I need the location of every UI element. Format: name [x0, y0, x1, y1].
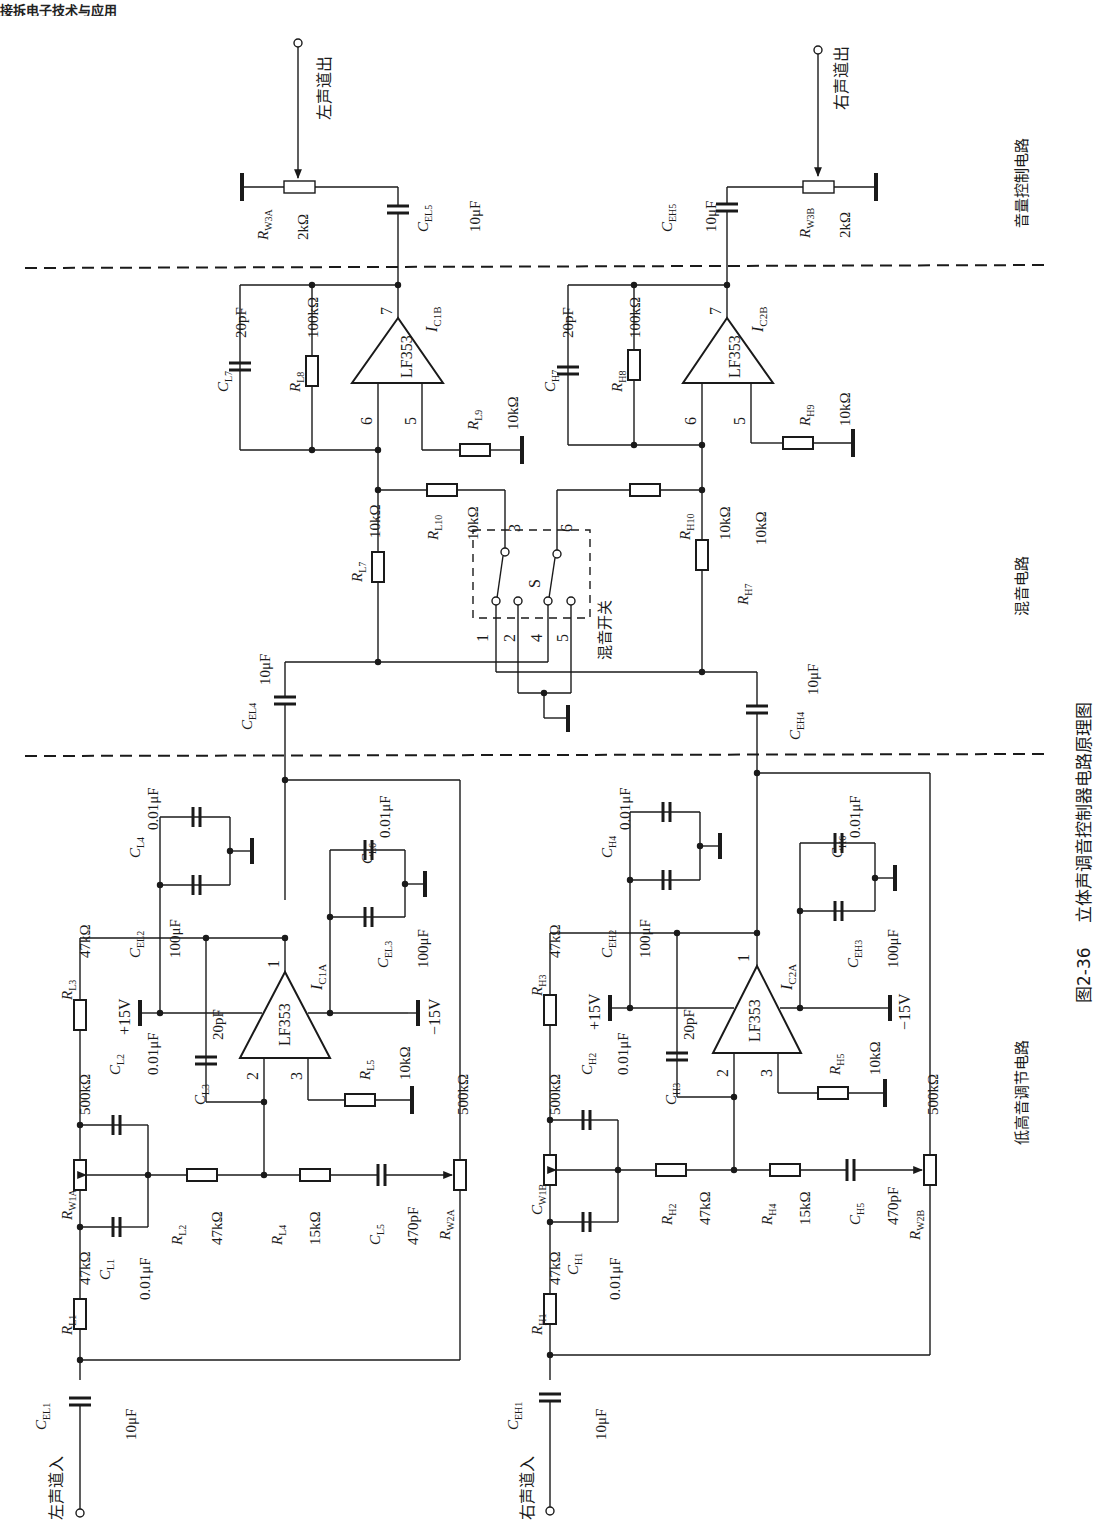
- component-rh8-value: 100kΩ: [627, 297, 643, 338]
- component-rh10-ref: RH10: [677, 514, 696, 541]
- component-ch2-ref: CH2: [579, 1053, 598, 1075]
- component-cl3-value: 20pF: [210, 1009, 226, 1040]
- component-rh1-value: 47kΩ: [547, 1251, 563, 1285]
- component-rw3a-ref: RW3A: [255, 208, 274, 241]
- component-cel3-ref: CEL3: [375, 941, 394, 968]
- component-ceh5-ref: CEH5: [659, 204, 678, 232]
- opamp-ic1b-ref: IC1B: [423, 306, 443, 333]
- component-rh10-value: 10kΩ: [717, 506, 733, 540]
- component-cel4-value: 10μF: [257, 654, 273, 685]
- mix-switch-label: 混音开关: [596, 600, 614, 660]
- component-rw3b-ref: RW3B: [797, 207, 816, 239]
- right-out-label: 右声道出: [832, 46, 851, 110]
- svg-text:7: 7: [707, 307, 724, 315]
- component-ch3-value: 20pF: [681, 1009, 697, 1040]
- switch-ref: S: [526, 579, 543, 588]
- component-rh4-ref: RH4: [759, 1204, 778, 1226]
- component-rl9-ref: RL9: [465, 410, 484, 431]
- svg-text:−15V: −15V: [426, 998, 443, 1035]
- component-ceh4-value: 10μF: [805, 664, 821, 695]
- component-rh5-ref: RH5: [827, 1054, 846, 1076]
- component-cel2-value: 100μF: [167, 919, 183, 958]
- svg-text:6: 6: [682, 417, 699, 425]
- component-cel2-ref: CEL2: [127, 931, 146, 958]
- component-cl2-value: 0.01μF: [145, 1032, 161, 1075]
- component-rw3b-value: 2kΩ: [837, 212, 853, 238]
- opamp-ic2a-ref: IC2A: [778, 964, 798, 991]
- component-cel1-value: 10μF: [123, 1409, 139, 1440]
- component-rl1-value: 47kΩ: [77, 1251, 93, 1285]
- component-rh7-value: 10kΩ: [753, 511, 769, 545]
- component-ch6-ref: CH6: [829, 836, 848, 858]
- component-rl2-value: 47kΩ: [209, 1211, 225, 1245]
- component-cel5-value: 10μF: [467, 201, 483, 232]
- component-rl8-value: 100kΩ: [305, 297, 321, 338]
- component-cw1b-value: 500kΩ: [547, 1074, 563, 1115]
- svg-text:5: 5: [554, 634, 571, 642]
- component-cw1b-ref: CW1B: [529, 1184, 548, 1215]
- component-ceh3-value: 100μF: [885, 929, 901, 968]
- component-ch1-value: 0.01μF: [607, 1257, 623, 1300]
- component-rl7-value: 10kΩ: [367, 504, 383, 538]
- component-cel5-ref: CEL5: [415, 205, 434, 232]
- component-ceh3-ref: CEH3: [845, 940, 864, 968]
- component-ch6-value: 0.01μF: [847, 795, 863, 838]
- component-rl5-ref: RL5: [357, 1060, 376, 1081]
- component-cel3-value: 100μF: [415, 929, 431, 968]
- svg-text:+15V: +15V: [116, 998, 133, 1035]
- component-rl2-ref: RL2: [169, 1225, 188, 1246]
- component-cl1-ref: CL1: [97, 1259, 116, 1280]
- component-cel4-ref: CEL4: [239, 703, 258, 730]
- svg-text:1: 1: [265, 960, 282, 968]
- svg-text:−15V: −15V: [896, 993, 913, 1030]
- component-rl8-ref: RL8: [287, 372, 306, 393]
- schematic-diagram: 左声道出 右声道出 左声道入 右声道入 音量控制电路 混音电路 低高音调节电路 …: [0, 0, 1101, 1525]
- svg-text:3: 3: [506, 524, 523, 532]
- opamp-ic1b-part: LF353: [398, 335, 415, 378]
- component-rh2-ref: RH2: [659, 1204, 678, 1226]
- left-out-label: 左声道出: [315, 56, 334, 120]
- component-ch5-value: 470pF: [885, 1187, 901, 1225]
- svg-text:5: 5: [402, 417, 419, 425]
- component-cl4-ref: CL4: [127, 837, 146, 858]
- svg-text:3: 3: [758, 1069, 775, 1077]
- component-rh9-ref: RH9: [797, 405, 816, 427]
- component-cl2-ref: CL2: [107, 1054, 126, 1075]
- component-rl1-ref: RL1: [59, 1315, 78, 1336]
- component-ceh5-value: 10μF: [703, 201, 719, 232]
- component-rh8-ref: RH8: [609, 371, 628, 393]
- component-rw1a-value: 500kΩ: [77, 1074, 93, 1115]
- component-rw2a-ref: RW2A: [437, 1208, 456, 1241]
- component-rl3-ref: RL3: [59, 980, 78, 1001]
- svg-text:1: 1: [735, 954, 752, 962]
- component-rw2a-value: 500kΩ: [455, 1074, 471, 1115]
- component-rw3a-value: 2kΩ: [295, 214, 311, 240]
- svg-text:2: 2: [244, 1072, 261, 1080]
- component-ceh1-value: 10μF: [593, 1409, 609, 1440]
- component-cl6-value: 0.01μF: [377, 795, 393, 838]
- component-ch3-ref: CH3: [663, 1083, 682, 1105]
- component-rh1-ref: RH1: [529, 1314, 548, 1336]
- section-volume-label: 音量控制电路: [1013, 138, 1031, 228]
- component-rl7-ref: RL7: [349, 562, 368, 583]
- component-ch5-ref: CH5: [847, 1203, 866, 1225]
- component-ch4-ref: CH4: [599, 836, 618, 858]
- component-rl10-value: 10kΩ: [465, 506, 481, 540]
- component-rh2-value: 47kΩ: [697, 1191, 713, 1225]
- svg-text:5: 5: [731, 417, 748, 425]
- figure-caption: 图2-36 立体声调音控制器电路原理图: [1074, 702, 1094, 1003]
- component-cl4-value: 0.01μF: [145, 787, 161, 830]
- component-rh3-ref: RH3: [529, 975, 548, 997]
- svg-text:立体声调音控制器电路原理图: 立体声调音控制器电路原理图: [1074, 702, 1094, 923]
- right-in-label: 右声道入: [518, 1456, 537, 1520]
- component-cl7-value: 20pF: [233, 307, 249, 338]
- component-rh5-value: 10kΩ: [867, 1041, 883, 1075]
- component-ceh2-ref: CEH2: [599, 930, 618, 958]
- component-rw2b-ref: RW2B: [907, 1209, 926, 1241]
- opamp-ic2b-part: LF353: [726, 335, 743, 378]
- divider-top: [25, 265, 1050, 268]
- component-cl5-ref: CL5: [367, 1224, 386, 1245]
- component-ch7-ref: CH7: [542, 370, 561, 392]
- svg-text:2: 2: [714, 1069, 731, 1077]
- opamp-ic2b-ref: IC2B: [749, 306, 769, 333]
